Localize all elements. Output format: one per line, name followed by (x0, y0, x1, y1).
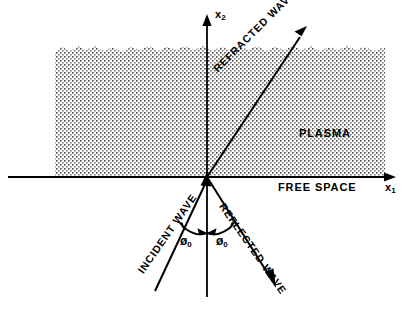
x1-axis-label: x1 (385, 181, 396, 195)
x2-axis-arrowhead (202, 14, 211, 26)
refracted-ray-arrowhead (295, 26, 308, 36)
diagram-canvas (0, 0, 411, 313)
angle-of-reflection-label: ø0 (216, 234, 228, 249)
angle-of-incidence-label: ø0 (180, 234, 192, 249)
free-space-region-label: FREE SPACE (278, 181, 356, 193)
wave-refraction-diagram: x2 x1 PLASMA FREE SPACE REFRACTED WAVE I… (0, 0, 411, 313)
plasma-region-label: PLASMA (299, 127, 351, 139)
x2-axis-label: x2 (215, 8, 226, 22)
